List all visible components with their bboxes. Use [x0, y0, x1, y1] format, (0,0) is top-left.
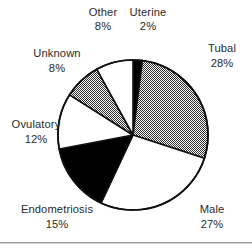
slice-percent-endometriosis: 15% — [46, 218, 69, 230]
slice-label-other: Other — [89, 6, 118, 18]
slice-label-ovulatory: Ovulatory — [12, 118, 61, 130]
pie-chart-figure: Uterine2%Tubal28%Male27%Endometriosis15%… — [0, 0, 252, 251]
slice-label-tubal: Tubal — [208, 42, 236, 54]
slice-label-unknown: Unknown — [33, 47, 80, 59]
slice-percent-male: 27% — [201, 218, 224, 230]
slice-percent-uterine: 2% — [140, 20, 156, 32]
slice-percent-unknown: 8% — [49, 62, 65, 74]
pie-chart-svg: Uterine2%Tubal28%Male27%Endometriosis15%… — [0, 0, 252, 251]
slice-label-endometriosis: Endometriosis — [21, 203, 93, 215]
slice-percent-other: 8% — [95, 20, 111, 32]
slice-percent-ovulatory: 12% — [25, 133, 48, 145]
slice-label-uterine: Uterine — [130, 6, 167, 18]
slice-label-male: Male — [200, 203, 225, 215]
footer-divider-shadow — [0, 243, 252, 244]
slice-percent-tubal: 28% — [211, 57, 234, 69]
